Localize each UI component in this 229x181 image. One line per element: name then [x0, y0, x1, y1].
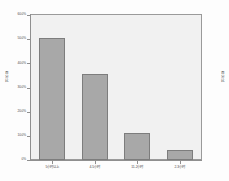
bar-series	[31, 15, 201, 160]
y-axis-tick-label: 0%	[22, 158, 26, 161]
bar	[39, 38, 65, 160]
bar	[82, 74, 108, 160]
y-axis-tick-label: 50.0%	[17, 37, 26, 40]
x-axis-tick	[137, 161, 138, 164]
y-axis-tick-labels: 0%10.0%20.0%30.0%40.0%50.0%60.0%	[6, 0, 26, 181]
y-axis-tick	[27, 88, 30, 89]
y-axis-tick-label: 60.0%	[17, 13, 26, 16]
x-axis-tick	[95, 161, 96, 164]
y-axis-tick	[27, 39, 30, 40]
y-axis-tick	[27, 136, 30, 137]
bar-chart: 百分比 百分比 0%10.0%20.0%30.0%40.0%50.0%60.0%…	[0, 0, 229, 181]
y-axis-tick-label: 30.0%	[17, 86, 26, 89]
bar	[167, 150, 193, 160]
x-axis-tick-label: 2-3小时	[174, 166, 185, 169]
y-axis-tick	[27, 63, 30, 64]
x-axis-tick-label: 4-5小时	[89, 166, 100, 169]
x-axis-tick-label: 5小时以上	[45, 166, 59, 169]
y-axis-tick	[27, 112, 30, 113]
y-axis-tick-label: 10.0%	[17, 134, 26, 137]
bar	[124, 133, 150, 160]
x-axis-tick	[180, 161, 181, 164]
x-axis-line	[30, 160, 202, 161]
y-axis-tick-label: 20.0%	[17, 110, 26, 113]
x-axis-tick	[52, 161, 53, 164]
y-axis-tick	[27, 15, 30, 16]
y-axis-tick	[27, 160, 30, 161]
y-axis-tick-label: 40.0%	[17, 62, 26, 65]
right-axis-title: 百分比	[219, 72, 226, 83]
x-axis-tick-label: 11-2小时	[131, 166, 143, 169]
